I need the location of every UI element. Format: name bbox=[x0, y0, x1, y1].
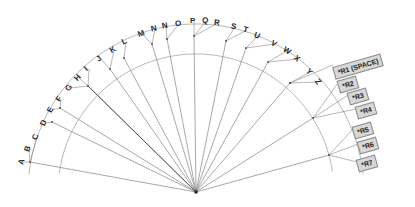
junction-node-2 bbox=[59, 107, 61, 109]
letter-label-p-16: P bbox=[190, 17, 195, 25]
letter-label-q-17: Q bbox=[202, 17, 209, 25]
spoke-wx bbox=[196, 62, 268, 192]
junction-node-box-1 bbox=[312, 117, 314, 119]
junction-node-3 bbox=[87, 85, 89, 87]
junction-node-4 bbox=[109, 68, 111, 70]
junction-node-box-0 bbox=[289, 82, 291, 84]
spoke-d bbox=[52, 122, 196, 192]
letter-label-n-13: N bbox=[150, 24, 157, 33]
spoke-r234 bbox=[196, 118, 313, 192]
spoke-l bbox=[124, 58, 196, 192]
junction-node-0 bbox=[29, 161, 31, 163]
diagram-canvas: ABCDEFGHIJKLMNNOPQRSTUVWXYZ *R1 (SPACE)*… bbox=[0, 0, 415, 207]
spoke-uv bbox=[196, 48, 246, 192]
spoke-group bbox=[30, 36, 329, 192]
junction-node-11 bbox=[267, 61, 269, 63]
spoke-ghi-accent bbox=[88, 86, 196, 192]
inner-arc bbox=[59, 54, 332, 173]
junction-node-7 bbox=[166, 38, 168, 40]
junction-node-10 bbox=[245, 47, 247, 49]
leader-line-box-2-5 bbox=[329, 144, 358, 155]
letter-label-r-18: R bbox=[214, 19, 221, 28]
spoke-jk bbox=[110, 69, 196, 192]
junction-node-8 bbox=[193, 35, 195, 37]
convergence-hub bbox=[194, 190, 198, 194]
junction-node-6 bbox=[151, 43, 153, 45]
outer-arc bbox=[29, 24, 363, 174]
leader-line-box-1-1 bbox=[313, 83, 338, 118]
letter-label-o-15: O bbox=[175, 20, 182, 29]
spoke-st bbox=[196, 41, 226, 192]
spoke-r567 bbox=[196, 155, 329, 192]
leader-line-box-2-6 bbox=[329, 155, 357, 162]
leader-group bbox=[23, 21, 358, 162]
junction-node-5 bbox=[123, 57, 125, 59]
spoke-yz bbox=[196, 83, 290, 192]
leader-line-box-2-4 bbox=[329, 129, 353, 155]
junction-node-1 bbox=[51, 121, 53, 123]
letter-label-n-14: N bbox=[161, 22, 168, 31]
spoke-pqr bbox=[194, 36, 196, 192]
junction-node-9 bbox=[225, 40, 227, 42]
junction-node-box-2 bbox=[328, 154, 330, 156]
spoke-no bbox=[167, 39, 196, 192]
arc-group bbox=[29, 24, 363, 174]
